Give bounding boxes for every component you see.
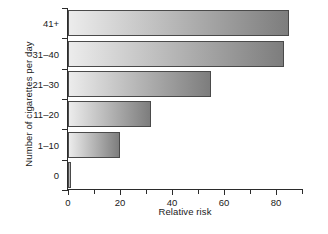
bar xyxy=(68,162,71,188)
chart-figure: Number of cigarettes per day 01–1011–202… xyxy=(0,0,328,234)
plot-area: 01–1011–2021–3031–4041+ 020406080 xyxy=(67,8,303,190)
y-axis-tick-label: 21–30 xyxy=(33,78,59,89)
x-axis-major-tick xyxy=(68,190,69,195)
x-axis-minor-tick xyxy=(302,190,303,194)
bar xyxy=(68,41,284,67)
bar xyxy=(68,71,211,97)
y-axis-tick-label: 31–40 xyxy=(33,48,59,59)
x-axis-minor-tick xyxy=(198,190,199,194)
y-axis-tick xyxy=(62,8,68,9)
y-axis-tick xyxy=(62,99,68,100)
x-axis-major-tick xyxy=(224,190,225,195)
y-axis-tick-label: 11–20 xyxy=(33,109,59,120)
x-axis-title: Relative risk xyxy=(67,206,303,217)
x-axis-major-tick xyxy=(120,190,121,195)
x-axis-minor-tick xyxy=(250,190,251,194)
y-axis-tick-label: 41+ xyxy=(43,18,59,29)
x-axis-major-tick xyxy=(276,190,277,195)
bar xyxy=(68,101,151,127)
y-axis-tick xyxy=(62,129,68,130)
x-axis-line xyxy=(67,189,303,190)
y-axis-tick xyxy=(62,38,68,39)
y-axis-title-text: Number of cigarettes per day xyxy=(23,41,34,166)
x-axis-major-tick xyxy=(172,190,173,195)
y-axis-tick-label: 0 xyxy=(54,169,59,180)
y-axis-tick xyxy=(62,160,68,161)
x-axis-minor-tick xyxy=(146,190,147,194)
bar xyxy=(68,132,120,158)
x-axis-minor-tick xyxy=(94,190,95,194)
y-axis-tick-label: 1–10 xyxy=(38,139,59,150)
y-axis-tick xyxy=(62,69,68,70)
bar xyxy=(68,10,289,36)
y-axis-title: Number of cigarettes per day xyxy=(16,14,40,194)
